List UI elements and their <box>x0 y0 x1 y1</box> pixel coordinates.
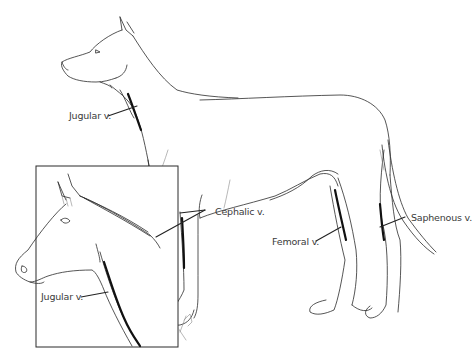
dog-cephalic-vein-2 <box>182 218 184 268</box>
saphenous-vein <box>380 204 384 240</box>
dog-jugular-leader <box>108 106 137 116</box>
label-dog-jugular: Jugular v. <box>69 111 111 121</box>
label-saphenous: Saphenous v. <box>411 213 472 223</box>
femoral-leader <box>316 227 341 241</box>
saphenous-leader <box>380 217 405 227</box>
artist-signature <box>178 314 192 340</box>
horse-inset <box>16 166 179 347</box>
label-cephalic: Cephalic v. <box>215 207 265 217</box>
label-femoral: Femoral v. <box>272 237 319 247</box>
dog-jugular-vein <box>128 94 141 130</box>
label-horse-jugular: Jugular v. <box>41 292 83 302</box>
inset-frame <box>36 166 178 347</box>
anatomical-diagram: Jugular v. Cephalic v. Femoral v. Saphen… <box>0 0 472 363</box>
line-art <box>0 0 472 363</box>
